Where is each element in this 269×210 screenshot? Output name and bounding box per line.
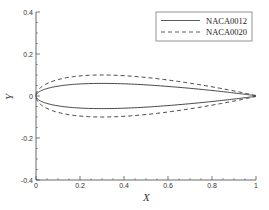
curve-naca0012: [36, 83, 256, 108]
y-tick-label: 0: [29, 93, 33, 100]
airfoil-profile-chart: 00.20.40.60.81-0.4-0.200.20.4 NACA0012 N…: [0, 0, 269, 210]
x-tick-label: 0.4: [119, 182, 129, 189]
y-tick-label: 0.2: [23, 51, 33, 58]
airfoil-curves: [36, 75, 256, 117]
y-tick-label: -0.2: [21, 135, 33, 142]
x-tick-label: 1: [254, 182, 258, 189]
x-axis-label: X: [142, 191, 151, 203]
x-tick-label: 0.6: [163, 182, 173, 189]
legend-label-naca0020: NACA0020: [206, 27, 247, 37]
x-tick-label: 0: [34, 182, 38, 189]
y-tick-label: 0.4: [23, 9, 33, 16]
y-axis-label: Y: [3, 92, 15, 100]
legend-label-naca0012: NACA0012: [206, 16, 247, 26]
legend: NACA0012 NACA0020: [156, 12, 252, 41]
y-tick-label: -0.4: [21, 177, 33, 184]
x-tick-label: 0.8: [207, 182, 217, 189]
curve-naca0020: [36, 75, 256, 117]
x-tick-label: 0.2: [75, 182, 85, 189]
